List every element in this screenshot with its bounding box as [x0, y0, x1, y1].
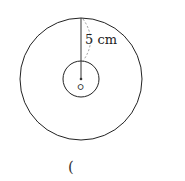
measure-label: 5 cm	[85, 32, 117, 47]
answer-paren: (	[68, 158, 74, 176]
concentric-circles-diagram	[0, 0, 185, 181]
center-label: ㅇ	[76, 79, 85, 94]
